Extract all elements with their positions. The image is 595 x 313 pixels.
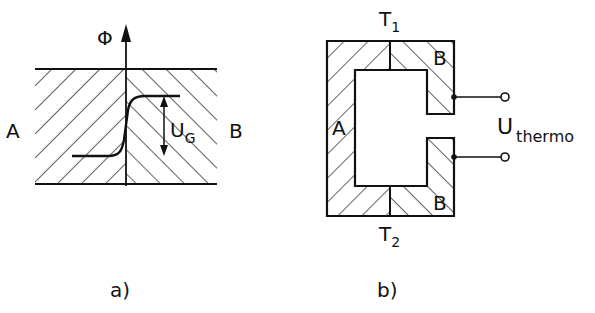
caption-a: a) bbox=[110, 278, 130, 302]
material-b-top-label: B bbox=[433, 46, 447, 70]
phi-label: Φ bbox=[97, 26, 113, 50]
caption-b: b) bbox=[377, 278, 398, 302]
thermoelectric-diagram: Φ UG A B a) T1 T2 A B bbox=[0, 0, 595, 313]
t2-label: T2 bbox=[378, 222, 400, 250]
phi-axis-arrow-icon bbox=[121, 24, 131, 42]
t1-label: T1 bbox=[378, 7, 400, 35]
terminal-top-icon bbox=[501, 93, 509, 101]
material-b-label: B bbox=[229, 119, 243, 143]
material-a-label-b: A bbox=[332, 116, 346, 140]
terminal-bottom-icon bbox=[501, 153, 509, 161]
u-thermo-label: Uthermo bbox=[497, 114, 574, 146]
figure-a: Φ UG A B a) bbox=[6, 24, 243, 302]
material-a-label: A bbox=[6, 119, 20, 143]
figure-b: T1 T2 A B B Uthermo b) bbox=[327, 7, 574, 302]
material-b-bottom-label: B bbox=[433, 191, 447, 215]
material-a-region bbox=[35, 69, 126, 184]
